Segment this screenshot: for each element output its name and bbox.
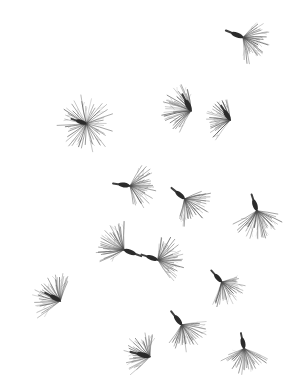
seed-tail [241, 333, 242, 338]
seed-tail [131, 352, 137, 353]
seed-tail [113, 183, 118, 184]
specimen-plate [0, 0, 299, 387]
specimen-plate-canvas [0, 0, 299, 387]
plate-background [0, 0, 299, 387]
